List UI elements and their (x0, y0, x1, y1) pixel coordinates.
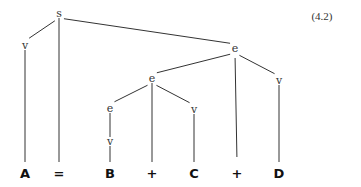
tree-node-e3: e (107, 102, 114, 115)
tree-edge-e1-e2 (157, 54, 230, 73)
parse-tree-diagram: svevevevA=B+C+D (4.2) (0, 0, 361, 187)
leaf-node-A: A (20, 166, 30, 181)
tree-edge-s-e1 (64, 19, 230, 44)
tree-node-s: s (56, 7, 62, 20)
equation-number: (4.2) (311, 10, 332, 23)
tree-node-v3: v (190, 103, 198, 116)
tree-node-v1: v (21, 39, 29, 52)
leaf-node-D: D (274, 166, 285, 181)
tree-node-e2: e (149, 72, 156, 85)
tree-node-e1: e (232, 42, 239, 55)
tree-node-v2: v (275, 74, 283, 87)
tree-edge-e2-v3 (156, 85, 189, 102)
leaf-node-B: B (105, 166, 115, 181)
leaf-node-eq: = (54, 166, 65, 181)
tree-edge-e1-v2 (239, 55, 274, 73)
tree-edges (25, 18, 279, 162)
tree-node-v4: v (106, 135, 114, 148)
leaf-node-p1: + (147, 166, 158, 181)
tree-edge-e2-e3 (114, 85, 147, 102)
tree-edge-s-v1 (29, 21, 55, 38)
leaf-node-C: C (189, 166, 199, 181)
tree-edge-e1-p2 (235, 58, 237, 157)
leaf-node-p2: + (232, 166, 243, 181)
